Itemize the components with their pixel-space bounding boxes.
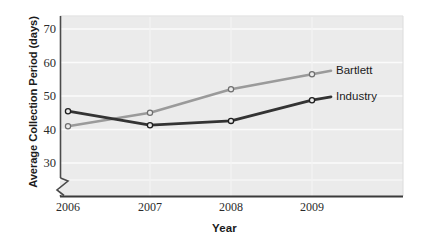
industry-point-2006	[65, 109, 70, 114]
series-label-industry: Industry	[336, 90, 377, 102]
x-tick-2007: 2007	[115, 200, 185, 215]
bartlett-point-2008	[228, 87, 233, 92]
industry-point-2009	[309, 98, 314, 103]
x-tick-2009: 2009	[277, 200, 347, 215]
bartlett-point-2009	[309, 72, 314, 77]
bartlett-point-2006	[65, 124, 70, 129]
x-tick-2006: 2006	[33, 200, 103, 215]
x-axis-title-text: Year	[212, 222, 237, 234]
x-tick-2008: 2008	[196, 200, 266, 215]
chart-figure: Average Collection Period (days) 70 60 5…	[0, 0, 427, 246]
series-label-bartlett: Bartlett	[336, 64, 372, 76]
industry-point-2007	[147, 123, 152, 128]
bartlett-point-2007	[147, 110, 152, 115]
industry-point-2008	[228, 118, 233, 123]
x-axis-title: Year	[0, 222, 427, 234]
